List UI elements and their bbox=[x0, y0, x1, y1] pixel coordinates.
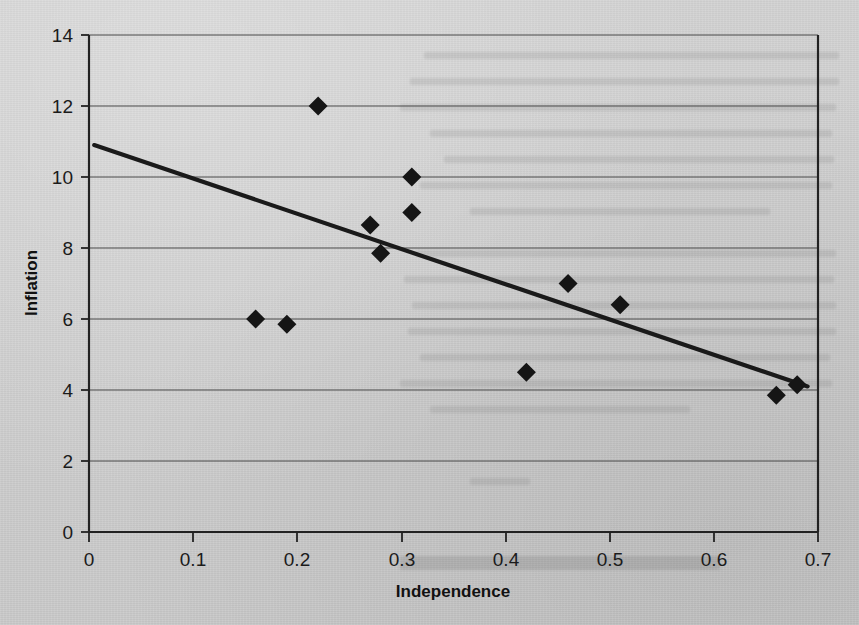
x-axis-title: Independence bbox=[396, 582, 510, 601]
trend-line bbox=[94, 145, 807, 386]
x-axis-ticks bbox=[89, 532, 818, 542]
y-tick-label: 12 bbox=[52, 96, 73, 117]
y-tick-label: 0 bbox=[62, 522, 73, 543]
data-point bbox=[277, 315, 296, 334]
x-tick-label: 0.7 bbox=[805, 549, 831, 570]
data-point bbox=[361, 215, 380, 234]
gridlines bbox=[89, 35, 818, 461]
data-point bbox=[767, 386, 786, 405]
scatter-chart: 14 12 10 8 6 4 2 0 0 0.1 0.2 0.3 0.4 0.5… bbox=[0, 0, 859, 625]
x-tick-label: 0.1 bbox=[180, 549, 206, 570]
x-axis-tick-labels: 0 0.1 0.2 0.3 0.4 0.5 0.6 0.7 bbox=[84, 549, 832, 570]
x-tick-label: 0.6 bbox=[701, 549, 727, 570]
y-axis-ticks bbox=[81, 35, 89, 532]
y-tick-label: 2 bbox=[62, 451, 73, 472]
y-tick-label: 6 bbox=[62, 309, 73, 330]
x-tick-label: 0.2 bbox=[284, 549, 310, 570]
y-tick-label: 14 bbox=[52, 25, 74, 46]
y-tick-label: 10 bbox=[52, 167, 73, 188]
data-point bbox=[402, 203, 421, 222]
y-axis-title: Inflation bbox=[22, 250, 41, 316]
data-point bbox=[402, 168, 421, 187]
y-axis-tick-labels: 14 12 10 8 6 4 2 0 bbox=[52, 25, 74, 543]
y-tick-label: 8 bbox=[62, 238, 73, 259]
x-tick-label: 0.3 bbox=[389, 549, 415, 570]
data-point bbox=[788, 375, 807, 394]
data-point bbox=[611, 295, 630, 314]
axes bbox=[89, 35, 818, 532]
data-point bbox=[246, 310, 265, 329]
data-point bbox=[517, 363, 536, 382]
data-point bbox=[559, 274, 578, 293]
x-tick-label: 0.5 bbox=[597, 549, 623, 570]
y-tick-label: 4 bbox=[62, 380, 73, 401]
data-point bbox=[309, 97, 328, 116]
x-tick-label: 0 bbox=[84, 549, 95, 570]
data-point bbox=[371, 244, 390, 263]
x-tick-label: 0.4 bbox=[493, 549, 520, 570]
